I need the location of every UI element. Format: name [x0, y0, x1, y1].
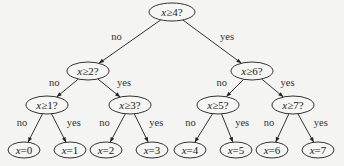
decision-tree-diagram: noyesnoyesnoyesnoyesnoyesnoyesnoyes x≥4?…	[0, 0, 344, 166]
edge-yes-n2-n6: yes	[262, 77, 295, 97]
arrow-head-icon	[276, 137, 280, 142]
edge-yes-n5-l5: yes	[222, 114, 250, 142]
decision-node-n2: x≥6?	[231, 62, 273, 80]
node-value: 7	[321, 144, 327, 156]
node-value: 3	[155, 144, 161, 156]
node-value: 1?	[47, 99, 58, 111]
node-label: x≥3?	[118, 99, 140, 111]
leaf-node-l1: x=1	[54, 142, 86, 158]
edge-label-yes: yes	[314, 117, 328, 128]
edge-label-no: no	[264, 117, 275, 128]
arrow-head-icon	[236, 59, 241, 64]
arrow-head-icon	[229, 137, 233, 142]
node-value: 6	[275, 144, 281, 156]
leaf-node-l0: x=0	[8, 142, 40, 158]
edge-label-yes: yes	[235, 117, 249, 128]
node-value: 7?	[293, 99, 304, 111]
arrow-head-icon	[195, 137, 199, 142]
leaf-node-l3: x=3	[136, 142, 168, 158]
edge-label-yes: yes	[67, 117, 81, 128]
edge-no-n3-l0: no	[17, 114, 43, 142]
node-label: x=5	[227, 144, 245, 156]
node-value: 5	[239, 144, 245, 156]
decision-node-n0: x≥4?	[149, 3, 195, 21]
edge-label-no: no	[49, 77, 60, 88]
decision-node-n6: x≥7?	[272, 96, 314, 114]
node-label: x=6	[263, 144, 281, 156]
edge-no-n2-n5: no	[217, 77, 244, 97]
edge-no-n5-l4: no	[185, 114, 212, 143]
node-label: x=2	[97, 144, 115, 156]
leaf-node-l7: x=7	[302, 142, 334, 158]
edge-no-n6-l6: no	[264, 114, 289, 142]
edge-yes-n1-n4: yes	[98, 77, 131, 97]
node-value: 2?	[88, 65, 99, 77]
node-value: 3?	[130, 99, 141, 111]
decision-node-n3: x≥1?	[26, 96, 68, 114]
edge-no-n4-l2: no	[99, 114, 125, 142]
leaf-node-l6: x=6	[256, 142, 288, 158]
node-label: x≥1?	[35, 99, 57, 111]
edge-yes-n0-n2: yes	[183, 20, 242, 63]
edge-label-yes: yes	[281, 77, 295, 88]
edge-line	[99, 20, 161, 63]
edge-label-no: no	[111, 31, 122, 42]
node-value: 5?	[218, 99, 229, 111]
edge-label-no: no	[217, 77, 228, 88]
leaf-node-l4: x=4	[174, 142, 206, 158]
edge-label-no: no	[185, 117, 196, 128]
node-value: 6?	[252, 65, 263, 77]
edge-yes-n3-l1: yes	[51, 114, 80, 142]
edge-label-no: no	[99, 117, 110, 128]
node-value: 1	[73, 144, 79, 156]
decision-node-n5: x≥5?	[197, 96, 239, 114]
edge-yes-n6-l7: yes	[298, 114, 328, 143]
leaf-node-l5: x=5	[220, 142, 252, 158]
node-label: x≥4?	[160, 6, 182, 18]
arrow-head-icon	[144, 137, 148, 142]
node-label: x≥7?	[281, 99, 303, 111]
decision-node-n1: x≥2?	[67, 62, 109, 80]
edges-layer: noyesnoyesnoyesnoyesnoyesnoyesnoyes	[17, 20, 328, 142]
node-value: 4?	[172, 6, 183, 18]
edge-label-yes: yes	[149, 117, 163, 128]
node-label: x=3	[143, 144, 161, 156]
edge-no-n1-n3: no	[49, 77, 78, 97]
arrow-head-icon	[310, 137, 314, 142]
arrow-head-icon	[28, 137, 32, 142]
node-label: x≥6?	[240, 65, 262, 77]
edge-label-yes: yes	[220, 31, 234, 42]
edge-yes-n4-l3: yes	[134, 114, 163, 142]
node-value: 2	[109, 144, 115, 156]
node-label: x=1	[61, 144, 79, 156]
decision-node-n4: x≥3?	[109, 96, 151, 114]
node-value: 0	[27, 144, 33, 156]
edge-label-no: no	[17, 117, 28, 128]
edge-no-n0-n1: no	[99, 20, 161, 63]
edge-line	[195, 114, 213, 143]
node-label: x=4	[181, 144, 199, 156]
arrow-head-icon	[99, 59, 104, 64]
node-label: x=0	[15, 144, 33, 156]
leaf-node-l2: x=2	[90, 142, 122, 158]
arrow-head-icon	[62, 137, 66, 142]
node-label: x≥5?	[206, 99, 228, 111]
node-label: x≥2?	[76, 65, 98, 77]
node-label: x=7	[309, 144, 327, 156]
node-value: 4	[193, 144, 199, 156]
edge-label-yes: yes	[117, 77, 131, 88]
arrow-head-icon	[110, 137, 114, 142]
